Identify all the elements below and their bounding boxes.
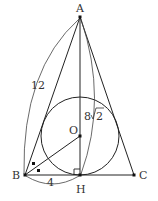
measure-ab: 12 xyxy=(31,79,45,92)
measure-ah-coefficient: 8 xyxy=(84,110,91,123)
point-b-marker xyxy=(24,174,27,177)
angle-mark-dot xyxy=(37,169,40,172)
label-a: A xyxy=(75,2,85,15)
point-o-marker xyxy=(79,135,82,138)
label-h: H xyxy=(76,183,86,196)
label-b: B xyxy=(12,169,20,182)
label-c: C xyxy=(139,169,147,182)
segment-bo xyxy=(25,136,80,175)
angle-mark-dot xyxy=(32,162,35,165)
label-o: O xyxy=(69,124,78,137)
measure-bh: 4 xyxy=(47,176,54,189)
measure-ah-radicand: 2 xyxy=(96,110,103,123)
side-ab xyxy=(25,17,80,175)
point-a-marker xyxy=(79,16,82,19)
geometry-diagram: A B C H O 12 4 8 2 xyxy=(0,0,158,201)
point-h-marker xyxy=(79,174,82,177)
point-c-marker xyxy=(133,174,136,177)
arc-ah-measure xyxy=(81,19,95,174)
